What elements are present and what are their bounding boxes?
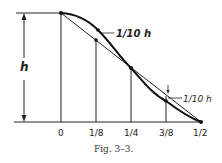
annotation-upper-label: 1/10 h [116,28,151,39]
annotation-lower-label: 1/10 h [183,94,212,104]
point-mid [129,66,133,70]
x-tick-3-8: 3/8 [159,128,174,138]
x-tick-1-4: 1/4 [124,128,139,138]
figure-diagram: h 1/10 h 1/10 h 0 1/8 1/4 3/8 1/2 Fig. 3… [0,0,222,163]
x-tick-0: 0 [58,128,64,138]
arrow-down-small-icon [167,90,170,94]
figure-caption: Fig. 3–3. [94,144,134,154]
arrow-down-icon [22,115,27,122]
x-tick-1-2: 1/2 [193,128,207,138]
point-curve-1-8 [96,28,100,32]
point-top [59,11,63,15]
point-curve-3-8 [164,99,168,103]
point-end [199,120,203,124]
height-label: h [20,60,29,74]
arrow-up-icon [22,13,27,20]
x-tick-1-8: 1/8 [89,128,104,138]
point-line-1-8 [94,38,98,42]
